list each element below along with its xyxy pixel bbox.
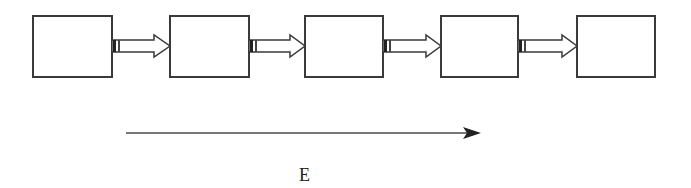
block-arrow-icon [112, 35, 170, 57]
box-2 [170, 16, 249, 77]
block-arrow-icon [383, 35, 441, 57]
flow-diagram [0, 0, 691, 188]
box-1 [33, 16, 112, 77]
box-5 [577, 16, 655, 77]
box-4 [441, 16, 518, 77]
block-arrow-icon [249, 35, 305, 57]
direction-arrow-icon [126, 127, 481, 139]
box-3 [305, 16, 383, 77]
block-arrow-icon [518, 35, 577, 57]
direction-label: E [299, 166, 310, 184]
